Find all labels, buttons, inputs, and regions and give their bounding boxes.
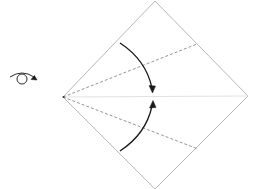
paper-square bbox=[63, 1, 248, 189]
origami-diagram bbox=[0, 0, 257, 189]
turn-over-icon bbox=[10, 73, 37, 84]
turnover-circle bbox=[17, 74, 27, 84]
left-vertex-dot bbox=[63, 96, 65, 98]
